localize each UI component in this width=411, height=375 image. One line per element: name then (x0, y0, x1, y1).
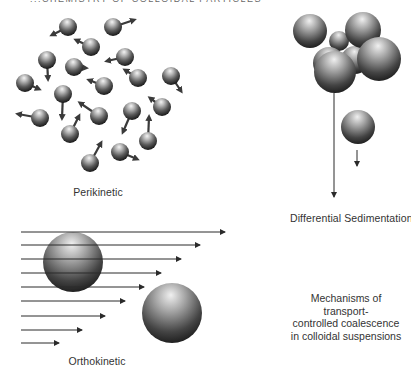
colloid-particle (95, 77, 113, 95)
caption-line-3: in colloidal suspensions (290, 330, 402, 343)
orthokinetic-label: Orthokinetic (62, 355, 132, 367)
colloid-particle (111, 143, 129, 161)
colloid-particle (65, 58, 83, 76)
colloid-particle (129, 69, 147, 87)
colloid-particle (31, 109, 49, 127)
colloid-particle (59, 18, 77, 36)
differential-sedimentation-label: Differential Sedimentation (290, 212, 402, 224)
shear-flow-particle (43, 232, 103, 292)
differential-sedimentation-panel (293, 12, 401, 197)
aggregate-cluster-particle (293, 14, 327, 48)
perikinetic-label: Perikinetic (68, 186, 128, 198)
colloid-particle (81, 154, 99, 172)
colloid-particle (139, 132, 157, 150)
aggregate-cluster-particle (314, 51, 356, 93)
colloid-particle (38, 51, 56, 69)
colloid-particle (16, 74, 34, 92)
diagram-canvas: ...CHEMISTRY OF COLLOIDAL PARTICLES (0, 0, 411, 375)
perikinetic-panel (16, 18, 181, 172)
colloid-particle (153, 98, 171, 116)
caption-line-1: Mechanisms of transport- (290, 292, 402, 317)
orthokinetic-panel (21, 232, 225, 343)
caption-line-2: controlled coalescence (290, 317, 402, 330)
figure-caption: Mechanisms of transport- controlled coal… (290, 292, 402, 342)
colloid-particle (82, 38, 100, 56)
colloid-particle (116, 48, 134, 66)
colloid-particle (61, 125, 79, 143)
colloid-particle (54, 85, 72, 103)
shear-flow-particle (142, 283, 202, 343)
colloid-particle (104, 18, 122, 36)
colloid-particle (90, 107, 108, 125)
aggregate-cluster-particle (357, 37, 401, 81)
slow-settling-particle (341, 110, 375, 144)
colloid-particle (123, 102, 141, 120)
colloid-particle (162, 67, 180, 85)
